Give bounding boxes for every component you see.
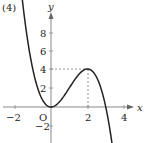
- function-curve: [17, 0, 112, 143]
- x-tick-label: −2: [6, 112, 21, 123]
- y-axis-label: y: [47, 1, 54, 12]
- x-tick-label: 2: [85, 112, 91, 123]
- x-axis-arrow-icon: [127, 105, 134, 110]
- y-tick-label: −2: [35, 121, 50, 132]
- y-tick-label: 6: [40, 46, 46, 57]
- y-tick-label: 8: [40, 28, 46, 39]
- x-axis-label: x: [137, 102, 143, 113]
- y-tick-label: 4: [40, 64, 46, 75]
- function-graph: (4) y x O −2 2 4 8 6 4 2 −2: [0, 0, 145, 143]
- x-tick-label: 4: [121, 112, 127, 123]
- y-axis-arrow-icon: [49, 12, 54, 19]
- y-tick-label: 2: [40, 83, 46, 94]
- problem-label: (4): [2, 2, 16, 13]
